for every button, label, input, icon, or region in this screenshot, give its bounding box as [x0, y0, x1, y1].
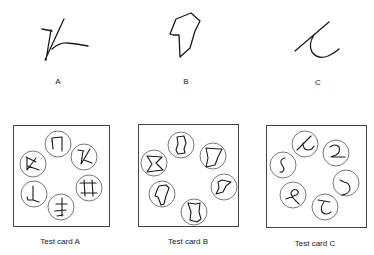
test-card-b-label: Test card B	[168, 237, 208, 246]
test-card-a-label: Test card A	[40, 237, 80, 246]
test-card-a	[14, 126, 110, 227]
card-item	[323, 140, 349, 166]
sample-shape-c	[295, 22, 339, 57]
card-item	[181, 199, 207, 225]
card-item	[270, 152, 296, 178]
card-item	[312, 194, 338, 220]
card-item	[45, 131, 71, 157]
card-item	[149, 181, 175, 207]
card-item	[333, 170, 359, 196]
card-item	[71, 144, 97, 170]
card-item	[211, 174, 237, 200]
card-item	[280, 182, 306, 208]
test-card-c-label: Test card C	[295, 239, 336, 248]
sample-shape-a	[42, 19, 88, 60]
card-item	[200, 143, 226, 169]
card-item	[168, 132, 194, 158]
sample-label-b: B	[183, 77, 188, 86]
sample-shape-b	[170, 13, 200, 57]
diagram-canvas: A B C	[0, 0, 374, 255]
test-card-b	[139, 125, 239, 227]
card-item	[21, 181, 47, 207]
card-item	[48, 194, 74, 220]
test-card-c	[267, 126, 367, 228]
card-item	[76, 175, 102, 201]
sample-label-c: C	[315, 78, 321, 87]
card-item	[20, 151, 46, 177]
sample-label-a: A	[55, 77, 61, 86]
card-item	[141, 150, 167, 176]
card-item	[292, 131, 318, 157]
